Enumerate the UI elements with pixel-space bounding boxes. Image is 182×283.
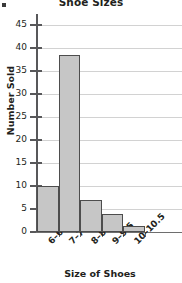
- y-axis-tick: [30, 139, 42, 141]
- bar: [59, 55, 81, 232]
- y-axis-tick-label: 20: [0, 135, 27, 144]
- y-axis-tick: [30, 93, 42, 95]
- y-axis-tick-label: 0: [0, 227, 27, 236]
- y-axis-tick-label: 35: [0, 66, 27, 75]
- bar: [80, 200, 102, 232]
- y-axis-tick-label: 25: [0, 112, 27, 121]
- y-axis-tick-label: 15: [0, 158, 27, 167]
- gridline: [36, 25, 182, 26]
- y-axis-tick-label: 30: [0, 89, 27, 98]
- plot-area: 0510152025303540456–6.57–7.58–8.59–9.510…: [0, 0, 182, 283]
- shoe-sizes-bar-chart: Shoe Sizes Number Sold 05101520253035404…: [0, 0, 182, 283]
- y-axis-tick: [30, 162, 42, 164]
- bar: [102, 214, 124, 232]
- y-axis-tick: [30, 24, 42, 26]
- y-axis-tick-label: 5: [0, 204, 27, 213]
- y-axis-tick: [30, 70, 42, 72]
- y-axis-tick: [30, 47, 42, 49]
- gridline: [36, 48, 182, 49]
- y-axis-tick-label: 10: [0, 181, 27, 190]
- y-axis-tick: [30, 116, 42, 118]
- bar: [37, 186, 59, 232]
- y-axis-tick-label: 45: [0, 20, 27, 29]
- y-axis-tick-label: 40: [0, 43, 27, 52]
- x-axis-title: Size of Shoes: [18, 268, 182, 279]
- bar: [123, 226, 145, 232]
